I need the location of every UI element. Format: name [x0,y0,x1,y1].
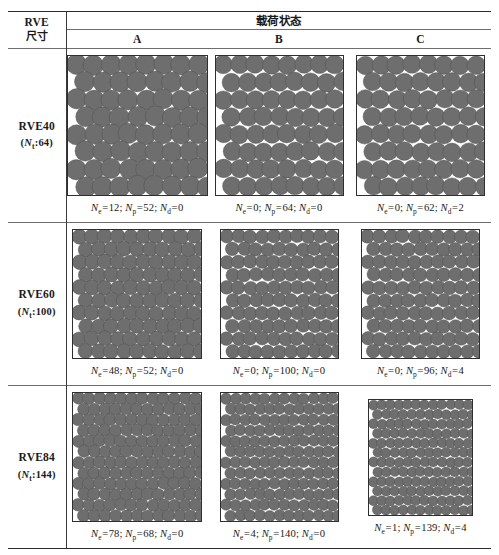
rve-comparison-table: RVE 尺寸 载荷状态 A B C RVE40 (Nt:64) [8,11,491,549]
header-cell-loading-state: 载荷状态 [66,12,491,30]
rve-figure-r1-c [356,55,485,196]
figure-cell-r1-c: Ne=0; Np=62; Nd=2 [350,48,491,222]
rve-figure-r1-a [67,55,208,196]
row-label-name: RVE40 [8,118,66,136]
header-col-c: C [350,29,491,48]
rve-figure-r3-c [368,399,473,516]
rve-figure-r2-b [220,229,339,359]
rve-figure-r2-a [72,229,202,359]
table-body: RVE40 (Nt:64) Ne=12; Np=52; Nd=0 Ne=0; [8,48,491,548]
figure-cell-r3-b: Ne=4; Np=140; Nd=0 [208,386,350,549]
header-col-b: B [208,29,350,48]
header-rve-line1: RVE [8,15,66,30]
table-row: RVE60 (Nt:100) Ne=48; Np=52; Nd=0 Ne=0 [8,222,491,385]
clipped-caption-text [0,547,499,555]
caption-r3-c: Ne=1; Np=139; Nd=4 [350,520,491,540]
row-label-name: RVE60 [8,286,66,304]
clipped-figure-caption [0,547,499,555]
row-label-count: (Nt:100) [8,304,66,322]
row-label-count: (Nt:144) [8,467,66,485]
table-row: RVE40 (Nt:64) Ne=12; Np=52; Nd=0 Ne=0; [8,48,491,222]
figure-cell-r1-a: Ne=12; Np=52; Nd=0 [66,48,208,222]
caption-r2-b: Ne=0; Np=100; Nd=0 [208,363,350,383]
caption-r1-b: Ne=0; Np=64; Nd=0 [208,200,350,220]
figure-cell-r2-c: Ne=0; Np=96; Nd=4 [350,222,491,385]
header-rve-line2: 尺寸 [8,30,66,44]
rve-figure-r2-c [361,229,480,359]
caption-r3-a: Ne=78; Np=68; Nd=0 [67,526,209,546]
row-label-rve40: RVE40 (Nt:64) [8,48,66,222]
figure-cell-r2-b: Ne=0; Np=100; Nd=0 [208,222,350,385]
row-label-name: RVE84 [8,449,66,467]
row-label-rve60: RVE60 (Nt:100) [8,222,66,385]
figure-cell-r2-a: Ne=48; Np=52; Nd=0 [66,222,208,385]
caption-r1-a: Ne=12; Np=52; Nd=0 [67,200,209,220]
caption-r2-c: Ne=0; Np=96; Nd=4 [350,363,491,383]
header-row-top: RVE 尺寸 载荷状态 [8,12,491,30]
row-label-rve84: RVE84 (Nt:144) [8,386,66,549]
rve-figure-r3-a [72,392,202,522]
figure-cell-r3-a: Ne=78; Np=68; Nd=0 [66,386,208,549]
figure-cell-r1-b: Ne=0; Np=64; Nd=0 [208,48,350,222]
header-col-a: A [66,29,208,48]
rve-figure-r1-b [215,55,344,196]
table-head: RVE 尺寸 载荷状态 A B C [8,12,491,49]
caption-r3-b: Ne=4; Np=140; Nd=0 [208,526,350,546]
header-cell-rve-size: RVE 尺寸 [8,12,66,49]
table: RVE 尺寸 载荷状态 A B C RVE40 (Nt:64) [8,11,491,549]
header-row-columns: A B C [8,29,491,48]
rve-figure-r3-b [220,392,339,522]
figure-cell-r3-c: Ne=1; Np=139; Nd=4 [350,386,491,549]
row-label-count: (Nt:64) [8,135,66,153]
table-row: RVE84 (Nt:144) Ne=78; Np=68; Nd=0 Ne=4 [8,386,491,549]
caption-r2-a: Ne=48; Np=52; Nd=0 [67,363,209,383]
caption-r1-c: Ne=0; Np=62; Nd=2 [350,200,491,220]
